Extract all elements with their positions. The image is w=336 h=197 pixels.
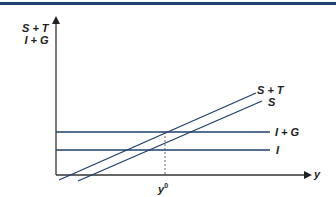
diagram-canvas [0,0,336,197]
y-axis-label-line1: S + T [22,22,49,34]
label-s-plus-t: S + T [257,84,284,96]
label-i: I [276,144,279,156]
y-axis-label: S + T I + G [22,22,49,46]
y-axis-label-line2: I + G [22,34,49,46]
equilibrium-label-sup: 0 [164,182,168,189]
curve-s-plus-t [59,93,256,180]
curve-s [78,101,262,181]
label-s: S [268,96,275,108]
equilibrium-label: y0 [158,180,168,195]
label-i-plus-g: I + G [275,126,299,138]
x-axis-label: y [314,168,320,180]
